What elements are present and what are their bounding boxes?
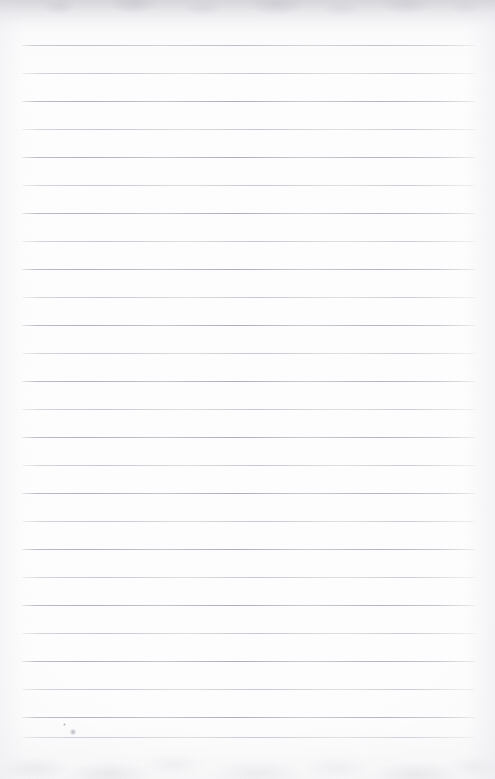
scanned-page (0, 0, 495, 779)
paper-background (0, 0, 495, 779)
